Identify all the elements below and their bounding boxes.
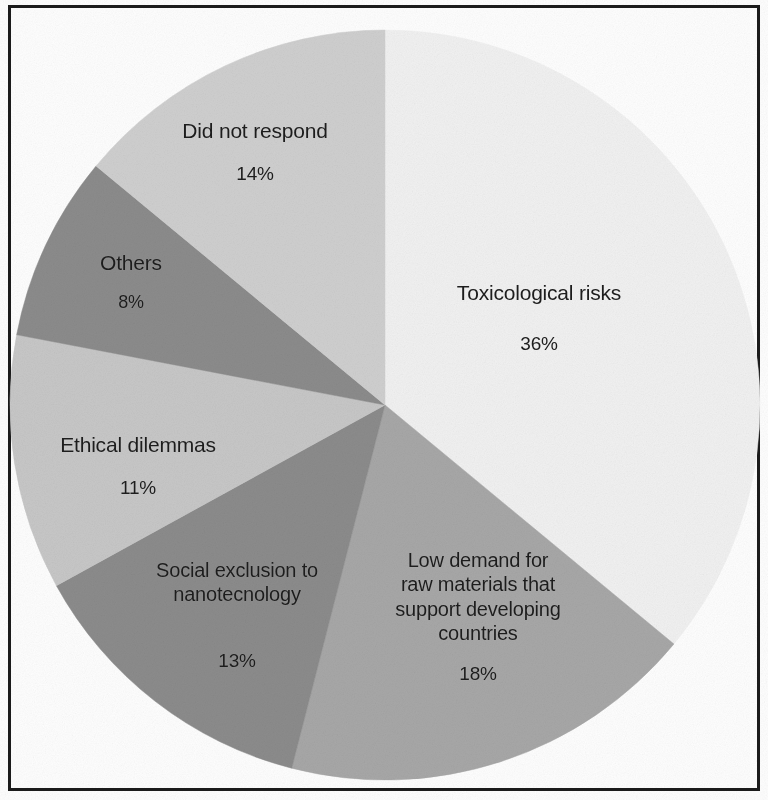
slice-label-name: Toxicological risks (404, 280, 674, 306)
slice-label-percent: 14% (140, 162, 370, 185)
slice-label-name: Ethical dilemmas (22, 432, 254, 458)
slice-label-ethical-dilemmas: Ethical dilemmas 11% (22, 432, 254, 499)
slice-label-name: Others (56, 250, 206, 276)
slice-label-toxicological-risks: Toxicological risks 36% (404, 280, 674, 355)
pie-chart: Toxicological risks 36% Low demand for r… (0, 0, 768, 800)
slice-label-name: Social exclusion to nanotecnology (118, 558, 356, 607)
slice-label-low-demand-raw-materials: Low demand for raw materials that suppor… (360, 548, 596, 685)
slice-label-name: Did not respond (140, 118, 370, 144)
figure-page: Toxicological risks 36% Low demand for r… (0, 0, 768, 800)
slice-label-did-not-respond: Did not respond 14% (140, 118, 370, 185)
slice-label-percent: 18% (360, 662, 596, 685)
slice-label-social-exclusion-nanotecnology: Social exclusion to nanotecnology 13% (118, 558, 356, 672)
slice-label-name: Low demand for raw materials that suppor… (360, 548, 596, 646)
slice-label-percent: 13% (118, 649, 356, 672)
slice-label-percent: 36% (404, 332, 674, 355)
slice-label-percent: 11% (22, 476, 254, 499)
slice-label-percent: 8% (56, 292, 206, 314)
slice-label-others: Others 8% (56, 250, 206, 314)
